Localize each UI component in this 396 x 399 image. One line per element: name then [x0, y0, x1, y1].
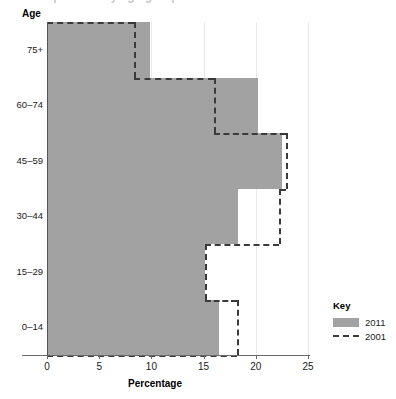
y-tick-label: 75+	[1, 44, 43, 55]
x-tick-label: 25	[293, 361, 323, 372]
x-tick-label: 0	[32, 361, 62, 372]
bar-2011	[47, 189, 238, 245]
x-tick-label: 5	[84, 361, 114, 372]
y-axis-line	[47, 22, 48, 355]
y-tick-label: 45–59	[1, 155, 43, 166]
chart-root: Population by age group Age 0–1415–2930–…	[0, 0, 396, 399]
outline-2001-segment	[205, 244, 207, 300]
plot-area	[47, 22, 308, 355]
outline-2001-segment	[134, 22, 136, 78]
outline-2001-segment	[237, 300, 239, 356]
y-tick-label: 30–44	[1, 210, 43, 221]
bar-2011	[47, 244, 205, 300]
bar-2011	[47, 300, 219, 356]
outline-2001-segment	[279, 189, 281, 245]
outline-2001-segment	[214, 78, 216, 134]
x-tick-mark	[99, 355, 100, 359]
y-tick-label: 0–14	[1, 321, 43, 332]
y-tick-label: 60–74	[1, 99, 43, 110]
y-axis-title: Age	[22, 8, 41, 19]
bar-2011	[47, 78, 258, 134]
legend-label-2011: 2011	[365, 317, 385, 328]
x-tick-mark	[204, 355, 205, 359]
x-tick-label: 15	[189, 361, 219, 372]
legend-item-2001: 2001	[333, 329, 395, 343]
legend-item-2011: 2011	[333, 315, 395, 329]
outline-2001-segment	[205, 244, 279, 246]
outline-2001-segment	[214, 133, 286, 135]
y-tick-label: 15–29	[1, 266, 43, 277]
x-tick-mark	[47, 355, 48, 359]
outline-2001-segment	[205, 300, 237, 302]
legend-title: Key	[333, 300, 395, 311]
x-tick-label: 20	[241, 361, 271, 372]
x-tick-mark	[256, 355, 257, 359]
gridline	[308, 22, 309, 355]
legend: Key 2011 2001	[333, 300, 395, 343]
outline-2001-segment	[279, 189, 286, 191]
legend-label-2001: 2001	[365, 331, 386, 342]
outline-2001-segment	[134, 78, 214, 80]
chart-title-cropped: Population by age group	[0, 0, 396, 7]
legend-swatch-filled-icon	[333, 318, 359, 327]
legend-swatch-dashed-icon	[333, 335, 359, 337]
bar-2011	[47, 133, 282, 189]
x-tick-label: 10	[136, 361, 166, 372]
outline-2001-segment	[286, 133, 288, 189]
x-tick-mark	[308, 355, 309, 359]
chart-title-text: Population by age group	[38, 0, 179, 3]
y-tick-labels: 0–1415–2930–4445–5960–7475+	[0, 22, 43, 355]
x-axis-title: Percentage	[0, 378, 310, 389]
x-axis-line	[22, 355, 310, 356]
outline-2001-segment	[47, 22, 134, 24]
x-tick-mark	[151, 355, 152, 359]
gridline	[256, 22, 257, 355]
